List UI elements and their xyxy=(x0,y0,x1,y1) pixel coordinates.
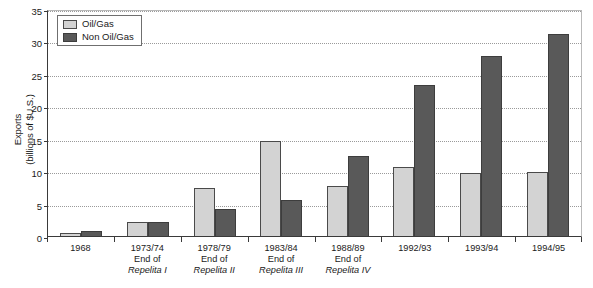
x-axis-label-year: 1983/84 xyxy=(248,243,315,254)
bar-non-oil-gas xyxy=(81,231,102,236)
bar-non-oil-gas xyxy=(414,85,435,236)
bar-group xyxy=(315,11,382,236)
bar-group xyxy=(248,11,315,236)
x-axis-label-repelita: Repelita IV xyxy=(315,265,382,276)
x-axis-label-repelita: Repelita III xyxy=(248,265,315,276)
x-axis-label-year: 1988/89 xyxy=(315,243,382,254)
y-axis-tick-label: 0 xyxy=(37,233,42,244)
bar-oil-gas xyxy=(327,186,348,236)
legend-label-oil-gas: Oil/Gas xyxy=(82,19,114,29)
x-axis-label: 1992/93 xyxy=(381,243,448,277)
legend-entry-oil-gas: Oil/Gas xyxy=(63,19,134,29)
x-axis-label-year: 1978/79 xyxy=(181,243,248,254)
legend-entry-non-oil-gas: Non Oil/Gas xyxy=(63,32,134,42)
bar-group xyxy=(448,11,515,236)
bar-non-oil-gas xyxy=(148,222,169,236)
y-axis-tick-label: 30 xyxy=(31,38,42,49)
x-axis-tick-mark xyxy=(47,237,48,242)
x-axis-tick-mark xyxy=(315,237,316,242)
bar-non-oil-gas xyxy=(348,156,369,236)
x-axis-tick-mark xyxy=(581,237,582,242)
y-axis-title-line1: Exports xyxy=(12,60,24,200)
x-axis-label: 1983/84End ofRepelita III xyxy=(248,243,315,277)
legend-swatch-oil-gas xyxy=(63,20,77,29)
bar-group xyxy=(381,11,448,236)
x-axis-label: 1994/95 xyxy=(515,243,582,277)
x-axis-tick-mark xyxy=(181,237,182,242)
x-axis-label: 1973/74End ofRepelita I xyxy=(114,243,181,277)
x-axis-label-year: 1968 xyxy=(47,243,114,254)
bar-non-oil-gas xyxy=(481,56,502,236)
y-axis-tick-label: 5 xyxy=(37,200,42,211)
bar-non-oil-gas xyxy=(281,200,302,236)
exports-bar-chart: Exports (billions of $U.S.) 051015202530… xyxy=(0,0,593,288)
x-axis-label-subtext: End of xyxy=(181,254,248,265)
x-axis-tick-mark xyxy=(114,237,115,242)
x-axis-tick-mark xyxy=(381,237,382,242)
y-axis-tick-label: 15 xyxy=(31,135,42,146)
x-axis-label-repelita: Repelita II xyxy=(181,265,248,276)
bar-oil-gas xyxy=(194,188,215,236)
x-axis-label-subtext: End of xyxy=(248,254,315,265)
y-axis-tick-label: 35 xyxy=(31,6,42,17)
legend-swatch-non-oil-gas xyxy=(63,33,77,42)
bar-non-oil-gas xyxy=(548,34,569,236)
bar-oil-gas xyxy=(260,141,281,236)
x-axis-label: 1968 xyxy=(47,243,114,277)
x-axis-label-subtext: End of xyxy=(114,254,181,265)
y-axis-tick-label: 25 xyxy=(31,70,42,81)
x-axis-tick-mark xyxy=(515,237,516,242)
x-axis-label-year: 1994/95 xyxy=(515,243,582,254)
x-axis-label: 1978/79End ofRepelita II xyxy=(181,243,248,277)
bar-oil-gas xyxy=(460,173,481,236)
bar-group xyxy=(514,11,581,236)
x-axis-label-year: 1973/74 xyxy=(114,243,181,254)
y-axis-tick-label: 20 xyxy=(31,103,42,114)
bar-oil-gas xyxy=(393,167,414,236)
bar-oil-gas xyxy=(527,172,548,236)
x-axis-label-subtext: End of xyxy=(315,254,382,265)
x-axis-label: 1993/94 xyxy=(448,243,515,277)
y-axis-tick-label: 10 xyxy=(31,168,42,179)
bar-oil-gas xyxy=(127,222,148,236)
x-axis-label-repelita: Repelita I xyxy=(114,265,181,276)
x-axis-label-year: 1992/93 xyxy=(381,243,448,254)
x-axis-label-year: 1993/94 xyxy=(448,243,515,254)
legend-label-non-oil-gas: Non Oil/Gas xyxy=(82,32,134,42)
x-axis-labels: 19681973/74End ofRepelita I1978/79End of… xyxy=(47,243,582,277)
x-axis-tick-mark xyxy=(248,237,249,242)
clipped-caption xyxy=(0,283,593,288)
bar-oil-gas xyxy=(60,233,81,236)
chart-legend: Oil/Gas Non Oil/Gas xyxy=(57,15,142,46)
bar-group xyxy=(181,11,248,236)
bar-non-oil-gas xyxy=(215,209,236,236)
x-axis-label: 1988/89End ofRepelita IV xyxy=(315,243,382,277)
x-axis-tick-mark xyxy=(448,237,449,242)
